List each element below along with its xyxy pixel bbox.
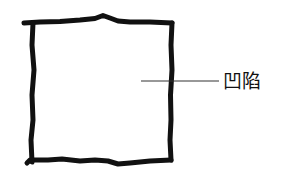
annotation-label: 凹陷 <box>223 70 261 92</box>
square-top-edge <box>24 16 172 24</box>
square-right-edge <box>170 23 172 160</box>
hand-drawn-square <box>24 16 172 165</box>
square-left-edge <box>31 23 34 162</box>
square-bottom-edge <box>27 159 171 164</box>
